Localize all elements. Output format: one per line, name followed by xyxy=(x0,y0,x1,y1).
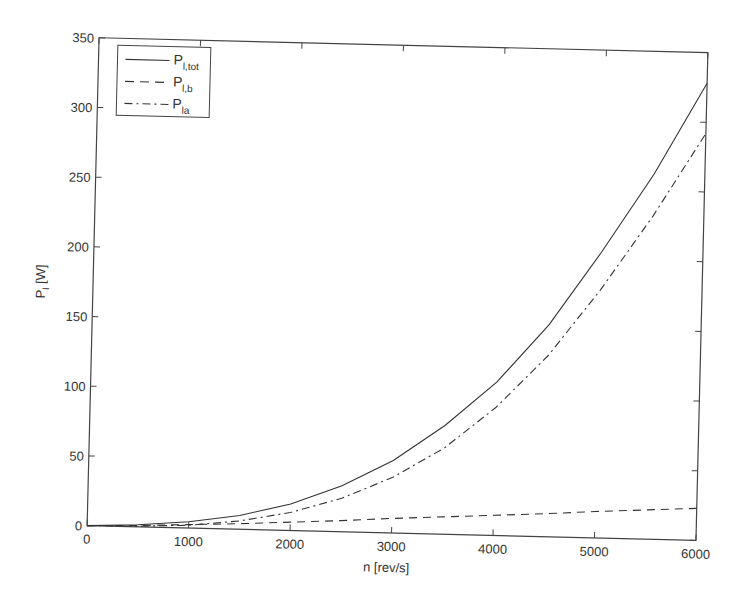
y-tick-label: 150 xyxy=(65,309,87,325)
series-line-solid xyxy=(87,68,707,540)
y-tick-label: 100 xyxy=(64,379,86,395)
y-tick-label: 50 xyxy=(69,448,84,463)
x-tick-label: 4000 xyxy=(478,541,507,557)
series-line-dashdot xyxy=(87,119,706,541)
x-tick-label: 3000 xyxy=(377,539,406,555)
x-tick-label: 6000 xyxy=(681,546,710,562)
svg-text:Pl [W]: Pl [W] xyxy=(33,264,52,298)
x-axis-label: n [rev/s] xyxy=(363,559,410,575)
x-tick-label: 1000 xyxy=(174,534,203,550)
line-chart: 0100020003000400050006000050100150200250… xyxy=(0,0,752,602)
series-layer xyxy=(87,68,707,540)
y-tick-label: 0 xyxy=(75,518,83,533)
x-tick-label: 2000 xyxy=(275,536,304,552)
y-tick-label: 200 xyxy=(67,239,89,255)
y-tick-label: 350 xyxy=(72,30,94,46)
chart-container: 0100020003000400050006000050100150200250… xyxy=(0,0,752,602)
x-tick-label: 5000 xyxy=(580,544,609,560)
y-tick-label: 250 xyxy=(69,169,91,185)
y-axis-label: Pl [W] xyxy=(33,264,52,298)
y-tick-label: 300 xyxy=(70,100,92,116)
x-tick-label: 0 xyxy=(83,532,91,547)
legend: Pl,totPl,bPla xyxy=(116,45,211,117)
